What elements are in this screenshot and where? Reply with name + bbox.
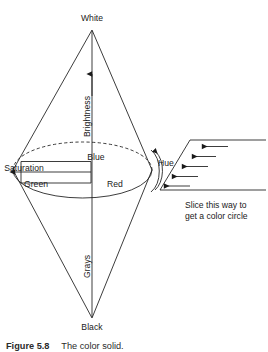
slice-caption-line-2: get a color circle bbox=[185, 211, 248, 222]
slice-plane-outline bbox=[160, 140, 266, 190]
label-saturation: Saturation bbox=[4, 164, 44, 173]
label-grays: Grays bbox=[83, 255, 92, 278]
lower-cone-right-edge bbox=[92, 170, 152, 318]
slice-caption-line-1: Slice this way to bbox=[185, 200, 248, 211]
diagram-canvas bbox=[0, 0, 268, 352]
figure-container: White Black Brightness Grays Saturation … bbox=[0, 0, 268, 352]
slice-caption: Slice this way to get a color circle bbox=[185, 200, 248, 222]
label-brightness: Brightness bbox=[83, 96, 92, 137]
label-hue-red: Red bbox=[107, 180, 123, 189]
figure-caption: Figure 5.8 The color solid. bbox=[6, 341, 124, 352]
label-white: White bbox=[81, 14, 103, 23]
upper-cone-left-edge bbox=[13, 30, 92, 170]
figure-caption-number: Figure 5.8 bbox=[6, 341, 49, 351]
lower-cone-left-edge bbox=[13, 170, 92, 318]
label-hue-blue: Blue bbox=[87, 153, 104, 162]
label-hue-green: Green bbox=[24, 180, 48, 189]
label-black: Black bbox=[81, 323, 102, 332]
upper-cone-right-edge bbox=[92, 30, 152, 170]
figure-caption-text: The color solid. bbox=[61, 341, 123, 351]
label-hue: Hue bbox=[158, 159, 174, 168]
